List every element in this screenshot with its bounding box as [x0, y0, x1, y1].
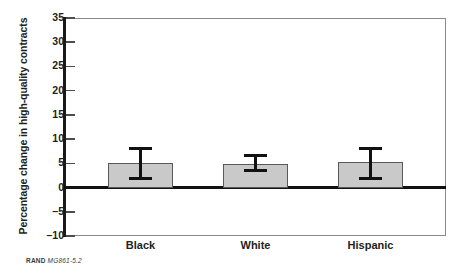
y-tick-label-10: 10 — [24, 132, 64, 144]
y-tick-label--5: –5 — [24, 205, 64, 217]
y-tick--10 — [66, 235, 75, 237]
error-bar-cap-upper-black — [129, 147, 152, 150]
x-axis-label-black: Black — [81, 239, 201, 251]
x-axis-label-hispanic: Hispanic — [311, 239, 431, 251]
error-bar-line-hispanic — [369, 147, 372, 180]
error-bar-cap-upper-white — [244, 154, 267, 157]
y-tick-35 — [66, 17, 75, 19]
error-bar-cap-lower-hispanic — [359, 177, 382, 180]
y-tick-10 — [66, 138, 75, 140]
y-tick-label-30: 30 — [24, 35, 64, 47]
y-tick-label-5: 5 — [24, 156, 64, 168]
plot-area — [64, 18, 446, 236]
y-tick-label--10: –10 — [24, 229, 64, 241]
y-tick-label-20: 20 — [24, 84, 64, 96]
error-bar-cap-upper-hispanic — [359, 147, 382, 150]
error-bar-cap-lower-black — [129, 177, 152, 180]
y-tick-label-0: 0 — [24, 181, 64, 193]
y-tick-label-25: 25 — [24, 59, 64, 71]
error-bar-cap-lower-white — [244, 169, 267, 172]
caption-source: RAND — [26, 257, 46, 264]
y-tick--5 — [66, 211, 75, 213]
figure-container: Percentage change in high-quality contra… — [0, 0, 466, 274]
y-tick-30 — [66, 41, 75, 43]
figure-caption: RAND MG861-5.2 — [26, 257, 82, 264]
y-tick-label-15: 15 — [24, 108, 64, 120]
y-tick-5 — [66, 163, 75, 165]
y-tick-15 — [66, 114, 75, 116]
x-axis-label-white: White — [196, 239, 316, 251]
caption-figure-number: MG861-5.2 — [48, 257, 82, 264]
y-tick-25 — [66, 66, 75, 68]
y-tick-20 — [66, 90, 75, 92]
error-bar-line-black — [139, 147, 142, 180]
y-tick-label-35: 35 — [24, 11, 64, 23]
